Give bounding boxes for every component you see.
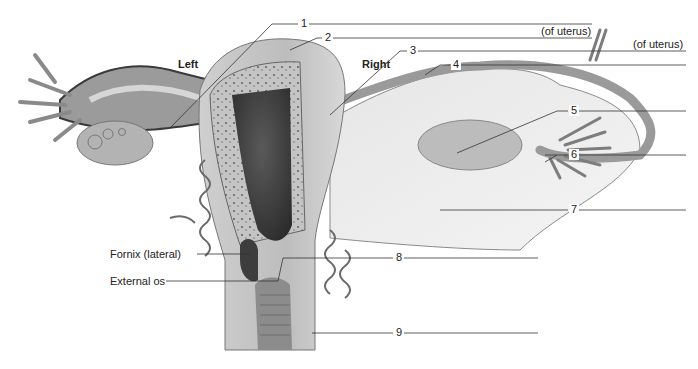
anatomy-illustration: [0, 0, 698, 369]
label-number-3: 3: [408, 45, 418, 56]
side-label-left: Left: [178, 58, 198, 70]
label-number-8: 8: [394, 252, 404, 263]
label-external-os: External os: [110, 276, 165, 287]
label-2-suffix: (of uterus): [541, 26, 591, 37]
label-number-6: 6: [569, 149, 579, 160]
label-number-4: 4: [451, 59, 461, 70]
label-number-9: 9: [394, 327, 404, 338]
label-3-suffix: (of uterus): [633, 39, 683, 50]
label-number-2: 2: [323, 32, 333, 43]
label-number-5: 5: [569, 105, 579, 116]
right-ovary: [418, 120, 522, 170]
uterus-anatomy-diagram: Left Right 1 2 3 4 5 6 7 8 9 (of uterus)…: [0, 0, 698, 369]
label-fornix-lateral: Fornix (lateral): [110, 249, 181, 260]
side-label-right: Right: [362, 58, 390, 70]
label-number-1: 1: [299, 18, 309, 29]
label-number-7: 7: [569, 204, 579, 215]
